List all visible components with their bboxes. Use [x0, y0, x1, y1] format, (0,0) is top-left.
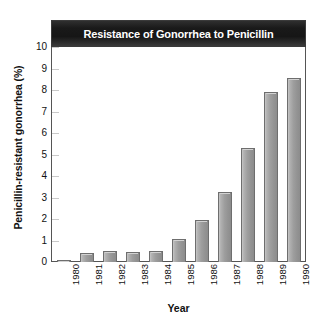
x-tick-label: 1990: [300, 264, 312, 304]
bar: [103, 251, 117, 262]
y-tick-label: 0: [25, 257, 47, 267]
y-tick-label: 5: [25, 150, 47, 160]
y-tick-mark: [52, 198, 59, 199]
x-tick-label: 1987: [231, 264, 243, 304]
x-tick-label: 1982: [116, 264, 128, 304]
y-tick-label: 2: [25, 214, 47, 224]
y-tick-label: 4: [25, 171, 47, 181]
y-tick-label: 3: [25, 193, 47, 203]
x-tick-label: 1986: [208, 264, 220, 304]
chart-figure: Penicillin-resistant gonorrhea (%) 01234…: [0, 0, 320, 321]
x-tick-label: 1980: [70, 264, 82, 304]
chart-title: Resistance of Gonorrhea to Penicillin: [83, 28, 273, 40]
y-tick-mark: [52, 47, 59, 48]
bar: [218, 192, 232, 262]
y-tick-mark: [52, 112, 59, 113]
bar: [149, 251, 163, 262]
x-axis-tick-labels: 1980198119821983198419851986198719881989…: [52, 264, 305, 304]
bar: [80, 253, 94, 262]
y-tick-mark: [52, 219, 59, 220]
x-tick-label: 1985: [185, 264, 197, 304]
y-tick-mark: [52, 90, 59, 91]
x-tick-label: 1981: [93, 264, 105, 304]
bar: [241, 148, 255, 262]
bar: [287, 78, 301, 262]
y-tick-mark: [52, 241, 59, 242]
bar: [195, 220, 209, 262]
x-tick-label: 1983: [139, 264, 151, 304]
x-tick-label: 1984: [162, 264, 174, 304]
y-tick-label: 1: [25, 236, 47, 246]
y-tick-mark: [52, 155, 59, 156]
bar: [172, 239, 186, 262]
y-axis-tick-labels: 012345678910: [25, 0, 47, 321]
chart-title-band: Resistance of Gonorrhea to Penicillin: [51, 20, 306, 47]
bar: [264, 92, 278, 262]
y-tick-label: 6: [25, 128, 47, 138]
y-tick-label: 8: [25, 85, 47, 95]
y-tick-label: 9: [25, 64, 47, 74]
x-tick-label: 1988: [254, 264, 266, 304]
bar: [126, 252, 140, 262]
y-tick-mark: [52, 69, 59, 70]
y-tick-label: 10: [25, 42, 47, 52]
x-axis-title: Year: [51, 302, 306, 314]
bar: [57, 260, 71, 262]
plot-area: [52, 47, 305, 262]
y-tick-mark: [52, 133, 59, 134]
y-tick-mark: [52, 176, 59, 177]
x-tick-label: 1989: [277, 264, 289, 304]
y-axis-title: Penicillin-resistant gonorrhea (%): [10, 15, 26, 280]
y-tick-label: 7: [25, 107, 47, 117]
